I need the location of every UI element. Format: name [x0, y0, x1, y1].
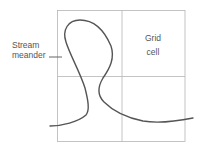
stream-grid-diagram	[0, 0, 202, 151]
grid-label-line2: cell	[138, 47, 168, 57]
stream-meander-curve	[50, 20, 193, 126]
grid-cell-label: Grid cell	[138, 33, 168, 57]
stream-label-line2: meander	[12, 50, 46, 60]
grid-label-line1: Grid	[138, 33, 168, 43]
stream-label-line1: Stream	[12, 40, 46, 50]
stream-meander-label: Stream meander	[12, 40, 46, 60]
